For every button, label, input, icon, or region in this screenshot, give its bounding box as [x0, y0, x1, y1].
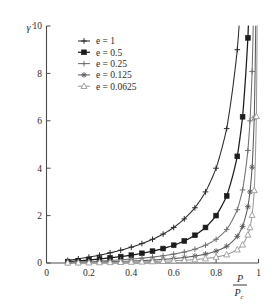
legend-label-3: e = 0.125: [96, 70, 132, 80]
marker-filled-square: [182, 239, 187, 244]
y-tick-label: 10: [33, 21, 43, 31]
marker-filled-square: [193, 233, 198, 238]
x-axis-title-numerator: P: [236, 273, 243, 284]
x-tick-label: 0.2: [83, 268, 95, 278]
marker-open-triangle: [247, 224, 253, 230]
y-tick-label: 2: [37, 211, 42, 221]
curve-e---0.5: [68, 26, 249, 262]
y-tick-label: 8: [37, 69, 42, 79]
marker-filled-square: [150, 249, 155, 254]
marker-open-triangle: [249, 212, 255, 218]
y-tick-label: 6: [37, 116, 42, 126]
legend-label-0: e = 1: [96, 36, 115, 46]
legend-label-4: e = 0.0625: [96, 82, 137, 92]
chart-figure: 00.20.40.60.810246810γ̇PPce = 1e = 0.5e …: [0, 0, 280, 306]
x-axis-title-denominator: Pc: [234, 287, 244, 300]
x-tick-label: 0.8: [210, 268, 222, 278]
y-tick-label: 4: [37, 164, 42, 174]
plot-canvas: 00.20.40.60.810246810γ̇PPce = 1e = 0.5e …: [0, 0, 280, 306]
curve-e---1: [68, 26, 239, 260]
marker-filled-square: [140, 251, 145, 256]
marker-filled-square: [214, 213, 219, 218]
legend-label-2: e = 0.25: [96, 59, 127, 69]
y-tick-label: 0: [37, 258, 42, 268]
x-tick-label: 0: [44, 268, 49, 278]
x-tick-label: 0.4: [125, 268, 137, 278]
marker-open-triangle: [245, 232, 251, 238]
marker-filled-square: [82, 50, 87, 55]
legend-label-1: e = 0.5: [96, 48, 122, 58]
marker-filled-square: [235, 154, 240, 159]
marker-filled-square: [171, 243, 176, 248]
marker-filled-square: [240, 114, 245, 119]
marker-filled-square: [246, 35, 251, 40]
marker-filled-square: [161, 246, 166, 251]
marker-filled-square: [224, 194, 229, 199]
x-tick-label: 1: [256, 268, 261, 278]
marker-filled-square: [203, 225, 208, 230]
x-tick-label: 0.6: [168, 268, 180, 278]
